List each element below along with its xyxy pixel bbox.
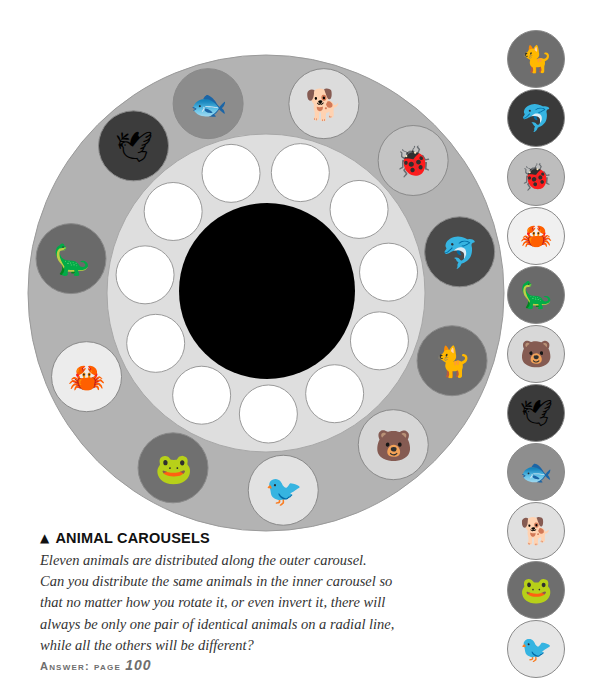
inner-empty-slot[interactable] [350,312,408,370]
side-token-frog[interactable]: 🐸 [507,561,565,619]
puzzle-title-text: ANIMAL CAROUSELS [55,530,209,546]
answer-reference: Answer: page 100 [40,657,480,673]
inner-empty-slot[interactable] [173,366,231,424]
frog-icon: 🐸 [155,451,192,486]
dinosaur-icon: 🦕 [53,242,90,277]
gannet-icon: 🕊 [115,129,153,164]
wildcat-icon: 🐈 [520,46,552,72]
crab-icon: 🦀 [68,360,105,395]
outer-token-dinosaur: 🦕 [36,224,106,294]
inner-empty-slot[interactable] [360,243,418,301]
outer-token-ladybug: 🐞 [378,126,448,196]
outer-token-fish: 🐟 [173,69,243,139]
outer-token-bear: 🐻 [358,410,428,480]
dinosaur-icon: 🦕 [520,282,552,308]
gannet-icon: 🕊 [520,400,553,426]
magpie-icon: 🐦 [265,473,302,508]
wildcat-icon: 🐈 [434,344,471,379]
bear-icon: 🐻 [520,341,552,367]
description-line: Eleven animals are distributed along the… [40,552,367,568]
triangle-up-icon: ▲ [40,531,49,545]
outer-token-crab: 🦀 [52,342,122,412]
outer-token-magpie: 🐦 [248,455,318,525]
inner-empty-slot[interactable] [306,365,364,423]
ladybug-icon: 🐞 [520,164,552,190]
puzzle-caption: ▲ ANIMAL CAROUSELS Eleven animals are di… [40,530,480,673]
inner-empty-slot[interactable] [127,314,185,372]
outer-token-dolphin: 🐬 [425,217,495,287]
carousel-svg: 🐟🐕🐞🐬🐈🐻🐦🐸🦀🦕🕊 [27,54,505,532]
side-token-dinosaur[interactable]: 🦕 [507,266,565,324]
dolphin-icon: 🐬 [441,234,478,270]
frog-icon: 🐸 [520,577,552,603]
ladybug-icon: 🐞 [395,144,432,179]
basset-hound-icon: 🐕 [305,87,342,122]
puzzle-title: ▲ ANIMAL CAROUSELS [40,530,480,546]
side-token-basset-hound[interactable]: 🐕 [507,502,565,560]
fish-icon: 🐟 [520,459,552,485]
inner-empty-slot[interactable] [239,385,297,443]
description-line: Can you distribute the same animals in t… [40,573,392,589]
outer-token-basset-hound: 🐕 [289,69,359,139]
basset-hound-icon: 🐕 [520,518,552,544]
outer-token-gannet: 🕊 [99,111,169,181]
inner-empty-slot[interactable] [330,180,388,238]
description-line: that no matter how you rotate it, or eve… [40,594,385,610]
side-token-crab[interactable]: 🦀 [507,207,565,265]
inner-empty-slot[interactable] [202,144,260,202]
side-token-gannet[interactable]: 🕊 [507,384,565,442]
inner-empty-slot[interactable] [144,182,202,240]
dolphin-icon: 🐬 [520,105,552,131]
outer-token-frog: 🐸 [138,433,208,503]
bear-icon: 🐻 [375,427,412,463]
animal-token-column: 🐈🐬🐞🦀🦕🐻🕊🐟🐕🐸🐦 [505,30,569,680]
puzzle-description: Eleven animals are distributed along the… [40,550,480,656]
fish-icon: 🐟 [190,87,227,122]
inner-empty-slot[interactable] [116,246,174,304]
carousel-diagram: 🐟🐕🐞🐬🐈🐻🐦🐸🦀🦕🕊 [27,54,505,532]
side-token-magpie[interactable]: 🐦 [507,620,565,678]
side-token-wildcat[interactable]: 🐈 [507,30,565,88]
magpie-icon: 🐦 [520,636,552,662]
answer-page-number: 100 [125,657,151,673]
side-token-dolphin[interactable]: 🐬 [507,89,565,147]
answer-label: Answer: page [40,660,121,672]
inner-empty-slot[interactable] [271,144,329,202]
description-line: while all the others will be different? [40,637,254,653]
side-token-bear[interactable]: 🐻 [507,325,565,383]
side-token-ladybug[interactable]: 🐞 [507,148,565,206]
description-line: always be only one pair of identical ani… [40,616,394,632]
center-hub [179,203,355,379]
side-token-fish[interactable]: 🐟 [507,443,565,501]
crab-icon: 🦀 [520,223,552,249]
outer-token-wildcat: 🐈 [417,326,487,396]
